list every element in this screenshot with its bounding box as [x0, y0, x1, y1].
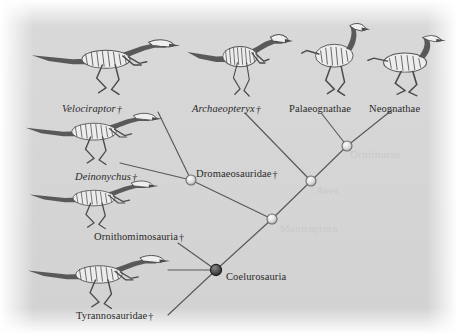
- clade-label-ornithurae: Ornithurae: [350, 148, 401, 160]
- tip-label-tyrannosauridae: Tyrannosauridae†: [76, 310, 153, 322]
- skeleton-ornithomimosauria: [30, 181, 159, 229]
- tip-label-neognathae-text: Neognathae: [369, 103, 420, 114]
- branch-ornithomimosauria: [178, 243, 216, 270]
- phylogeny-figure: Velociraptor†Archaeopteryx†Palaeognathae…: [0, 0, 457, 334]
- tip-label-tyrannosauridae-text: Tyrannosauridae: [76, 310, 147, 321]
- extinct-dagger-icon: †: [272, 169, 278, 180]
- extinct-dagger-icon: †: [131, 172, 137, 183]
- clade-label-coelurosauria: Coelurosauria: [226, 271, 286, 282]
- tip-label-palaeognathae-text: Palaeognathae: [289, 103, 351, 114]
- skeleton-palaeognathae: [302, 24, 371, 96]
- node-aves[interactable]: [306, 176, 316, 186]
- extinct-dagger-icon: †: [116, 104, 122, 115]
- skeleton-velociraptor: [32, 40, 180, 95]
- tip-label-deinonychus: Deinonychus†: [75, 171, 137, 183]
- clade-label-dromaeosauridae-text: Dromaeosauridae: [196, 168, 272, 179]
- branch-dromaeo-to-manirap: [191, 180, 272, 219]
- node-dromaeosauridae[interactable]: [186, 175, 196, 185]
- tip-label-archaeopteryx-text: Archaeopteryx: [192, 103, 255, 114]
- branch-aves-to-manirap: [272, 181, 311, 219]
- tip-label-deinonychus-text: Deinonychus: [75, 171, 131, 182]
- tip-label-archaeopteryx: Archaeopteryx†: [192, 103, 261, 115]
- clade-label-aves: Aves: [316, 184, 339, 196]
- phylogenetic-tree: [0, 0, 457, 334]
- branch-palaeognathae: [322, 114, 347, 146]
- clade-label-aves-text: Aves: [316, 184, 339, 196]
- clade-label-dromaeosauridae: Dromaeosauridae†: [196, 168, 278, 180]
- tip-label-palaeognathae: Palaeognathae: [289, 103, 351, 114]
- clade-label-maniraptora-text: Maniraptora: [280, 222, 338, 234]
- skeleton-neognathae: [368, 36, 446, 96]
- extinct-dagger-icon: †: [147, 311, 153, 322]
- branch-manirap-to-coelur: [216, 219, 272, 270]
- tip-label-velociraptor-text: Velociraptor: [62, 103, 116, 114]
- tip-label-velociraptor: Velociraptor†: [62, 103, 122, 115]
- extinct-dagger-icon: †: [255, 104, 261, 115]
- skeleton-deinonychus: [26, 113, 163, 164]
- node-maniraptora[interactable]: [267, 214, 277, 224]
- clade-label-ornithurae-text: Ornithurae: [350, 148, 401, 160]
- branch-velociraptor: [158, 112, 191, 180]
- node-coelurosauria[interactable]: [210, 264, 221, 275]
- skeleton-archaeopteryx: [187, 34, 292, 96]
- extinct-dagger-icon: †: [178, 232, 184, 243]
- tip-label-ornithomimosauria: Ornithomimosauria†: [94, 231, 184, 243]
- clade-label-maniraptora: Maniraptora: [280, 222, 338, 234]
- skeleton-tyrannosauridae: [28, 256, 170, 309]
- branch-neognathae: [347, 110, 392, 146]
- tip-label-ornithomimosauria-text: Ornithomimosauria: [94, 231, 178, 242]
- branch-tyrannosauridae: [168, 270, 216, 315]
- clade-label-coelurosauria-text: Coelurosauria: [226, 271, 286, 282]
- tip-label-neognathae: Neognathae: [369, 103, 420, 114]
- branch-aves-to-ornithurae: [311, 146, 347, 181]
